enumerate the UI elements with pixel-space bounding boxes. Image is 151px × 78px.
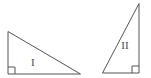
geometry-figure: I II [0, 0, 151, 78]
triangle-one-label: I [31, 57, 35, 68]
triangle-two-label: II [121, 40, 129, 51]
triangle-one-group [8, 32, 80, 74]
